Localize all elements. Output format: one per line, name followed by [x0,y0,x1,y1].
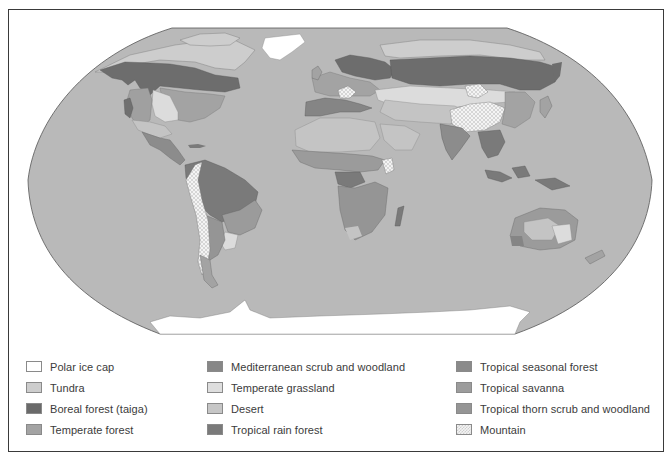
swatch-temperate-forest [26,424,42,435]
legend-column-3: Tropical seasonal forest Tropical savann… [456,356,650,440]
legend-label: Mediterranean scrub and woodland [231,361,405,373]
swatch-boreal-forest [26,403,42,414]
swatch-polar-ice-cap [26,361,42,372]
legend-item-mediterranean-scrub: Mediterranean scrub and woodland [207,356,405,377]
legend-label: Tropical savanna [480,382,564,394]
swatch-mountain [456,424,472,435]
legend-item-tropical-seasonal-forest: Tropical seasonal forest [456,356,650,377]
legend-label: Boreal forest (taiga) [50,403,148,415]
world-biome-map [0,0,672,350]
legend-label: Polar ice cap [50,361,114,373]
swatch-temperate-grassland [207,382,223,393]
legend-label: Tundra [50,382,85,394]
legend-item-polar-ice-cap: Polar ice cap [26,356,148,377]
legend-column-2: Mediterranean scrub and woodland Tempera… [207,356,405,440]
legend-item-desert: Desert [207,398,405,419]
legend-item-tropical-thorn-scrub: Tropical thorn scrub and woodland [456,398,650,419]
legend-item-tundra: Tundra [26,377,148,398]
swatch-tundra [26,382,42,393]
legend-item-tropical-rain-forest: Tropical rain forest [207,419,405,440]
swatch-tropical-rain-forest [207,424,223,435]
swatch-tropical-seasonal-forest [456,361,472,372]
legend-item-temperate-grassland: Temperate grassland [207,377,405,398]
legend-item-temperate-forest: Temperate forest [26,419,148,440]
map-legend: Polar ice cap Tundra Boreal forest (taig… [26,356,666,440]
legend-label: Tropical seasonal forest [480,361,598,373]
swatch-desert [207,403,223,414]
swatch-tropical-thorn-scrub [456,403,472,414]
legend-column-1: Polar ice cap Tundra Boreal forest (taig… [26,356,148,440]
swatch-mediterranean-scrub [207,361,223,372]
legend-label: Desert [231,403,264,415]
legend-label: Temperate grassland [231,382,335,394]
australia-southwest-mediterranean [510,236,524,246]
legend-item-mountain: Mountain [456,419,650,440]
legend-label: Mountain [480,424,526,436]
legend-label: Tropical thorn scrub and woodland [480,403,650,415]
legend-label: Temperate forest [50,424,133,436]
legend-item-tropical-savanna: Tropical savanna [456,377,650,398]
legend-item-boreal-forest: Boreal forest (taiga) [26,398,148,419]
legend-label: Tropical rain forest [231,424,323,436]
swatch-tropical-savanna [456,382,472,393]
